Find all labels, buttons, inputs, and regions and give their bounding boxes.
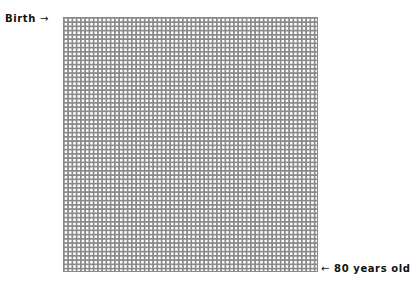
birth-label: Birth → <box>5 13 49 25</box>
arrow-left-icon: ← <box>321 263 330 274</box>
birth-label-text: Birth <box>5 13 36 24</box>
end-label-text: 80 years old <box>334 263 410 274</box>
arrow-right-icon: → <box>40 13 49 24</box>
end-label: ← 80 years old <box>321 263 411 275</box>
life-grid <box>63 17 318 272</box>
